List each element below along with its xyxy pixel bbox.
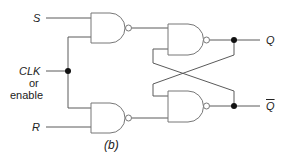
- q-junction-dot: [231, 37, 237, 43]
- nand-gate-qbar: [168, 91, 204, 122]
- q-label: Q: [266, 35, 275, 46]
- circuit-svg: [0, 0, 284, 159]
- s-label: S: [33, 13, 40, 24]
- clk-bus-wire: [68, 37, 91, 108]
- clk-enable-label: enable: [10, 90, 43, 101]
- inversion-bubble: [126, 25, 132, 31]
- inversion-bubble: [204, 103, 210, 109]
- nand-gate-r: [91, 103, 125, 133]
- clk-label: CLK: [19, 66, 40, 77]
- r-label: R: [32, 122, 40, 133]
- qbar-label: Q: [266, 101, 275, 112]
- inversion-bubble: [126, 115, 132, 121]
- nand-gate-s: [91, 13, 125, 43]
- clk-junction-dot: [65, 68, 71, 74]
- clk-or-label: or: [29, 78, 39, 89]
- qbar-junction-dot: [231, 103, 237, 109]
- gated-sr-latch-diagram: S CLK or enable R Q Q (b): [0, 0, 284, 159]
- inversion-bubble: [204, 37, 210, 43]
- nand-gate-q: [168, 24, 204, 55]
- caption: (b): [104, 140, 119, 151]
